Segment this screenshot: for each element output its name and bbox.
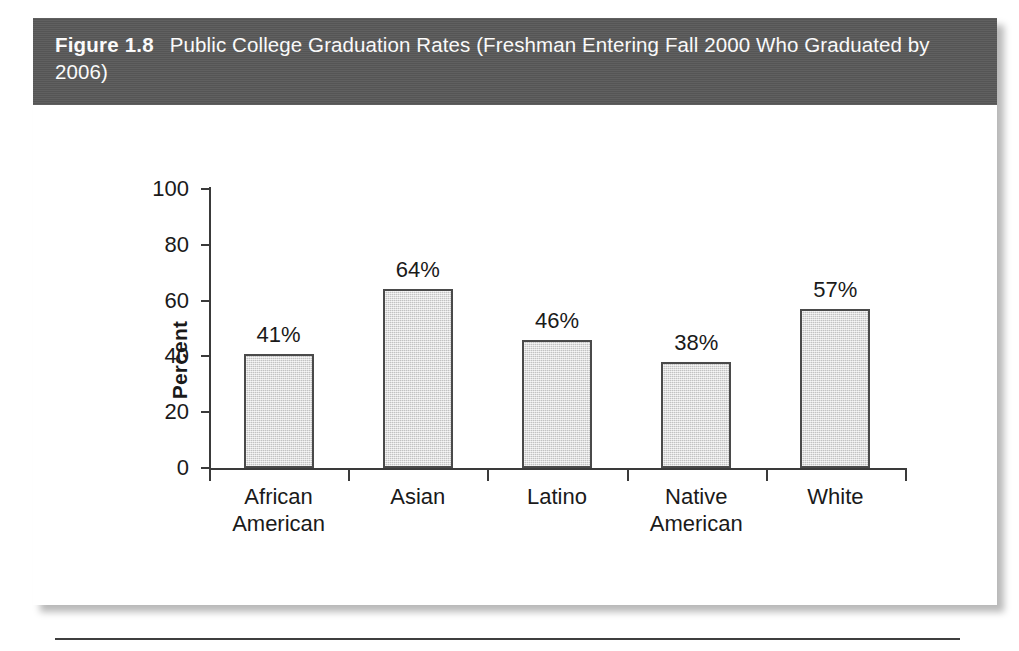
y-axis-tick: [201, 355, 209, 357]
figure-header-text: Figure 1.8Public College Graduation Rate…: [55, 31, 987, 86]
x-axis-category-label-line: Asian: [390, 484, 445, 511]
x-axis-tick: [487, 470, 489, 481]
figure-root: Figure 1.8Public College Graduation Rate…: [0, 0, 1019, 651]
y-axis-tick-label: 100: [143, 176, 189, 202]
x-axis-category-label-line: Latino: [527, 484, 587, 511]
y-axis-tick-label: 60: [143, 288, 189, 314]
y-axis-tick: [201, 300, 209, 302]
bar-chart: Percent 02040608010041%AfricanAmerican64…: [33, 105, 997, 605]
x-axis-category-label-line: Native: [650, 484, 743, 511]
x-axis-category-label: White: [807, 484, 863, 511]
bar-value-label: 41%: [257, 322, 301, 348]
x-axis-tick: [905, 470, 907, 481]
y-axis-tick: [201, 467, 209, 469]
figure-header: Figure 1.8Public College Graduation Rate…: [33, 18, 997, 105]
y-axis-tick: [201, 244, 209, 246]
figure-panel: Percent 02040608010041%AfricanAmerican64…: [33, 105, 997, 605]
y-axis-tick: [201, 188, 209, 190]
bar[interactable]: [244, 354, 314, 468]
x-axis-category-label: NativeAmerican: [650, 484, 743, 538]
bar-value-label: 46%: [535, 308, 579, 334]
bar-value-label: 64%: [396, 257, 440, 283]
bar[interactable]: [800, 309, 870, 468]
x-axis-line: [209, 468, 907, 470]
x-axis-category-label: Asian: [390, 484, 445, 511]
x-axis-category-label-line: American: [650, 511, 743, 538]
x-axis-tick: [627, 470, 629, 481]
figure-box: Figure 1.8Public College Graduation Rate…: [33, 18, 997, 605]
bar-value-label: 38%: [674, 330, 718, 356]
bar[interactable]: [383, 289, 453, 468]
y-axis-tick-label: 40: [143, 343, 189, 369]
y-axis-tick: [201, 411, 209, 413]
y-axis-line: [209, 187, 211, 470]
figure-title: Public College Graduation Rates (Freshma…: [55, 33, 930, 83]
y-axis-tick-label: 20: [143, 399, 189, 425]
y-axis-tick-label: 80: [143, 232, 189, 258]
figure-number: Figure 1.8: [55, 33, 154, 56]
bar[interactable]: [661, 362, 731, 468]
x-axis-category-label: Latino: [527, 484, 587, 511]
footer-rule: [55, 638, 960, 640]
bar-value-label: 57%: [813, 277, 857, 303]
x-axis-tick: [209, 470, 211, 481]
x-axis-tick: [766, 470, 768, 481]
y-axis-tick-label: 0: [143, 455, 189, 481]
x-axis-category-label: AfricanAmerican: [232, 484, 325, 538]
x-axis-tick: [348, 470, 350, 481]
bar[interactable]: [522, 340, 592, 468]
x-axis-category-label-line: American: [232, 511, 325, 538]
x-axis-category-label-line: White: [807, 484, 863, 511]
x-axis-category-label-line: African: [232, 484, 325, 511]
